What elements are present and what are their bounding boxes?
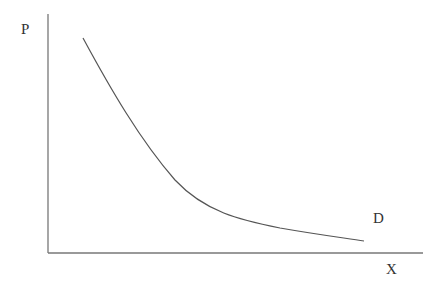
demand-curve (83, 38, 364, 241)
y-axis-label: P (21, 22, 29, 37)
chart-canvas (0, 0, 446, 286)
x-axis-label: X (386, 262, 397, 277)
curve-label: D (373, 211, 384, 226)
